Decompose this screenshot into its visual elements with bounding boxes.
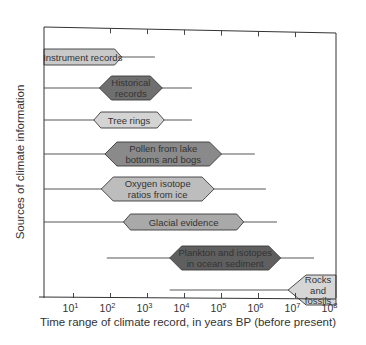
- source-label: Glacial evidence: [149, 217, 219, 228]
- source-row: Plankton and isotopesin ocean sediment: [107, 246, 314, 270]
- source-row: Oxygen isotoperatios from ice: [44, 177, 266, 201]
- source-label: ratios from ice: [128, 189, 188, 200]
- x-tick-label: 101: [63, 301, 79, 314]
- source-label: in ocean sediment: [187, 258, 264, 269]
- source-label: Tree rings: [108, 115, 151, 126]
- x-tick-label: 105: [211, 301, 227, 314]
- x-axis-ticks: 101102103104105106107108: [63, 28, 338, 314]
- source-label: Pollen from lake: [129, 143, 197, 154]
- source-rows: Instrument recordsHistoricalrecordsTree …: [43, 49, 336, 306]
- x-tick-label: 102: [100, 301, 116, 314]
- x-tick-label: 108: [322, 301, 338, 314]
- source-label: Oxygen isotope: [125, 178, 191, 189]
- x-axis-line: [39, 297, 336, 299]
- source-label: Historical: [111, 77, 150, 88]
- source-label: Plankton and isotopes: [178, 247, 272, 258]
- x-tick-label: 106: [248, 301, 264, 314]
- source-row: Instrument records: [43, 49, 155, 65]
- source-row: Historicalrecords: [44, 76, 192, 100]
- source-row: Glacial evidence: [44, 214, 277, 230]
- source-row: Tree rings: [44, 112, 192, 128]
- source-label: Rocks: [305, 274, 332, 285]
- x-tick-label: 104: [174, 301, 190, 314]
- climate-record-chart: Instrument recordsHistoricalrecordsTree …: [0, 0, 366, 345]
- x-axis-label: Time range of climate record, in years B…: [40, 316, 336, 328]
- source-label: records: [115, 88, 147, 99]
- x-tick-label: 103: [137, 301, 153, 314]
- x-tick-label: 107: [285, 301, 301, 314]
- source-label: and: [310, 285, 326, 296]
- source-row: Pollen from lakebottoms and bogs: [44, 142, 255, 166]
- source-label: Instrument records: [43, 52, 122, 63]
- source-label: bottoms and bogs: [125, 154, 201, 165]
- y-axis-label: Sources of climate information: [14, 85, 26, 240]
